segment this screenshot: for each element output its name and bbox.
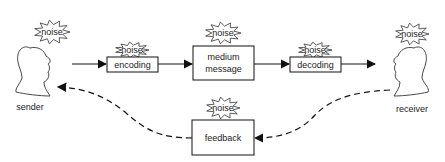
noise-label: noise	[121, 45, 143, 55]
communication-diagram: noisenoisenoisenoisenoisenoise encoding …	[0, 0, 445, 162]
noise-label: noise	[401, 29, 423, 39]
arrow-feedback-sender	[58, 87, 192, 138]
decoding-label: decoding	[297, 60, 334, 70]
noise-label: noise	[41, 27, 63, 37]
feedback-label: feedback	[205, 133, 242, 143]
sender-label: sender	[16, 102, 44, 112]
sender-head-icon	[16, 47, 50, 96]
medium-label: medium	[207, 52, 239, 62]
noise-label: noise	[212, 103, 234, 113]
noise-label: noise	[304, 45, 326, 55]
arrow-receiver-feedback	[255, 90, 390, 138]
receiver-label: receiver	[396, 104, 428, 114]
noise-label: noise	[212, 28, 234, 38]
receiver-head-icon	[394, 47, 429, 96]
message-label: message	[205, 64, 242, 74]
encoding-label: encoding	[114, 60, 151, 70]
